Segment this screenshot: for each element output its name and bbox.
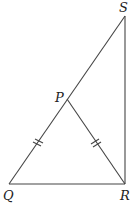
label-q: Q (3, 188, 14, 203)
label-s: S (119, 0, 128, 15)
label-r: R (119, 188, 130, 203)
label-p: P (54, 90, 64, 105)
triangle-diagram: S P Q R (0, 0, 134, 203)
